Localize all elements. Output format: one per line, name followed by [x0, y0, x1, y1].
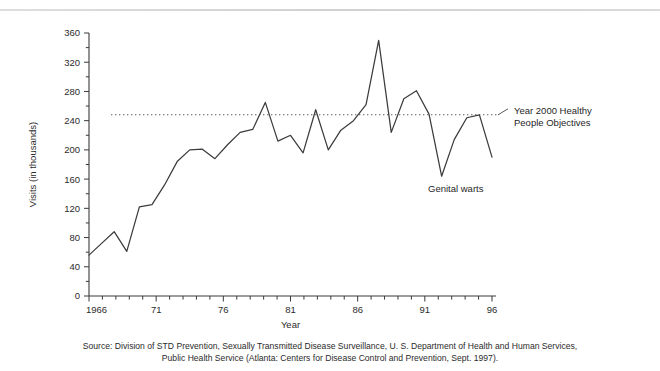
line-chart-plot: 04080120160200240280320360 1966717681869…: [0, 0, 660, 371]
y-tick-label: 280: [64, 86, 80, 97]
source-line-2: Public Health Service (Atlanta: Centers …: [0, 353, 660, 365]
y-tick-label: 120: [64, 203, 80, 214]
genital-warts-series-line: [89, 40, 492, 255]
source-note: Source: Division of STD Prevention, Sexu…: [0, 341, 660, 364]
y-tick-label: 160: [64, 174, 80, 185]
x-tick-label: 91: [420, 304, 431, 315]
y-tick-label: 200: [64, 144, 80, 155]
x-tick-label: 81: [285, 304, 296, 315]
y-tick-label: 240: [64, 115, 80, 126]
x-tick-label: 86: [352, 304, 363, 315]
y-tick-label: 80: [69, 232, 80, 243]
x-axis: 1966717681869196: [86, 296, 497, 315]
x-axis-title: Year: [281, 319, 300, 330]
objective-annotation-line1: Year 2000 Healthy: [514, 105, 592, 116]
source-line-1: Source: Division of STD Prevention, Sexu…: [0, 341, 660, 353]
series-annotation-label: Genital warts: [428, 183, 484, 194]
y-tick-label: 320: [64, 57, 80, 68]
x-tick-label: 96: [487, 304, 498, 315]
y-tick-label: 0: [75, 290, 80, 301]
x-tick-label: 1966: [86, 304, 107, 315]
annotation-leader-line: [498, 109, 508, 115]
x-tick-label: 76: [218, 304, 229, 315]
objective-annotation-line2: People Objectives: [514, 117, 591, 128]
y-tick-label: 360: [64, 27, 80, 38]
y-axis: 04080120160200240280320360: [64, 27, 89, 301]
y-axis-title: Visits (in thousands): [27, 122, 38, 207]
y-tick-label: 40: [69, 261, 80, 272]
chart-figure: 04080120160200240280320360 1966717681869…: [0, 0, 660, 371]
x-tick-label: 71: [151, 304, 162, 315]
